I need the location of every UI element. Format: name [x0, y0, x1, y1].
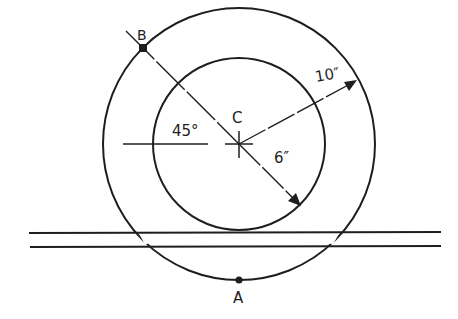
- outer-radius-dimension: [239, 83, 352, 144]
- rails: [29, 232, 441, 247]
- label-angle-45: 45°: [172, 122, 199, 140]
- wheel-rim-diagram: B A C 45° 6″ 10″: [0, 0, 458, 319]
- rail-crossing-gaps: [142, 235, 336, 244]
- point-b-marker: [139, 44, 147, 52]
- label-outer-radius-10in: 10″: [314, 64, 342, 86]
- rail-top: [29, 232, 441, 233]
- label-center-c: C: [232, 109, 242, 127]
- rail-bottom: [30, 246, 441, 247]
- label-inner-radius-6in: 6″: [274, 149, 290, 167]
- point-a-marker: [236, 277, 243, 284]
- label-a: A: [233, 289, 244, 307]
- arrowhead-icon: [344, 80, 357, 91]
- label-b: B: [137, 27, 147, 43]
